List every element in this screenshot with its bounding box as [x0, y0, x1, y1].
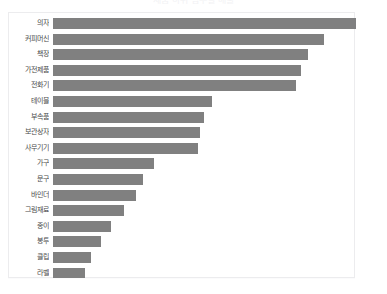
- bar-track: [53, 249, 356, 265]
- bar[interactable]: [53, 252, 91, 263]
- category-label: 부속품: [9, 109, 49, 125]
- bar-track: [53, 15, 356, 31]
- bar-rows: 의자커피머신책장가전제품전화기테이블부속품보관상자사무기기가구문구바인더그림재료…: [9, 13, 356, 279]
- bar-track: [53, 109, 356, 125]
- bar-row: 문구: [9, 171, 356, 187]
- category-label: 가전제품: [9, 62, 49, 78]
- bar-track: [53, 140, 356, 156]
- bar[interactable]: [53, 143, 198, 154]
- bar-row: 클립: [9, 249, 356, 265]
- bar[interactable]: [53, 221, 111, 232]
- bar[interactable]: [53, 190, 136, 201]
- bar-row: 테이블: [9, 93, 356, 109]
- bar-row: 그림재료: [9, 202, 356, 218]
- bar-row: 의자: [9, 15, 356, 31]
- bar-row: 부속품: [9, 109, 356, 125]
- bar-row: 가전제품: [9, 62, 356, 78]
- bar-track: [53, 233, 356, 249]
- bar[interactable]: [53, 158, 154, 169]
- bar-track: [53, 46, 356, 62]
- chart-title: 제품 하위 범주별 매출: [0, 0, 387, 6]
- bar-row: 커피머신: [9, 31, 356, 47]
- bar[interactable]: [53, 18, 356, 29]
- card-shadow: [8, 278, 355, 279]
- bar[interactable]: [53, 174, 143, 185]
- category-label: 테이블: [9, 93, 49, 109]
- bar-track: [53, 171, 356, 187]
- category-label: 봉투: [9, 233, 49, 249]
- category-label: 문구: [9, 171, 49, 187]
- bar[interactable]: [53, 34, 324, 45]
- bar-track: [53, 202, 356, 218]
- bar[interactable]: [53, 96, 212, 107]
- bar-row: 종이: [9, 218, 356, 234]
- category-label: 가구: [9, 155, 49, 171]
- bar[interactable]: [53, 80, 296, 91]
- bar-row: 가구: [9, 155, 356, 171]
- bar[interactable]: [53, 65, 301, 76]
- category-label: 사무기기: [9, 140, 49, 156]
- bar-track: [53, 93, 356, 109]
- bar-row: 보관상자: [9, 124, 356, 140]
- bar[interactable]: [53, 236, 101, 247]
- bar-row: 책장: [9, 46, 356, 62]
- bar-track: [53, 155, 356, 171]
- bar[interactable]: [53, 268, 85, 279]
- category-label: 의자: [9, 15, 49, 31]
- plot-area: 의자커피머신책장가전제품전화기테이블부속품보관상자사무기기가구문구바인더그림재료…: [8, 12, 355, 278]
- bar[interactable]: [53, 205, 124, 216]
- category-label: 클립: [9, 249, 49, 265]
- bar-row: 봉투: [9, 233, 356, 249]
- bar-track: [53, 62, 356, 78]
- bar-row: 사무기기: [9, 140, 356, 156]
- category-label: 보관상자: [9, 124, 49, 140]
- bar-row: 바인더: [9, 187, 356, 203]
- category-label: 바인더: [9, 187, 49, 203]
- bar-track: [53, 77, 356, 93]
- category-label: 책장: [9, 46, 49, 62]
- bar[interactable]: [53, 127, 200, 138]
- bar-row: 전화기: [9, 77, 356, 93]
- category-label: 그림재료: [9, 202, 49, 218]
- bar-track: [53, 124, 356, 140]
- category-label: 전화기: [9, 77, 49, 93]
- category-label: 종이: [9, 218, 49, 234]
- bar[interactable]: [53, 112, 204, 123]
- bar-track: [53, 187, 356, 203]
- bar-track: [53, 31, 356, 47]
- bar[interactable]: [53, 49, 308, 60]
- category-label: 커피머신: [9, 31, 49, 47]
- bar-track: [53, 218, 356, 234]
- bar-chart-container: 제품 하위 범주별 매출 의자커피머신책장가전제품전화기테이블부속품보관상자사무…: [0, 0, 387, 294]
